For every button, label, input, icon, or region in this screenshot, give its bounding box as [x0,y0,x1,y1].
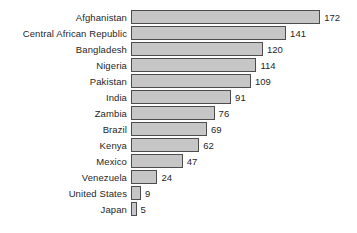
bar-row: United States9 [0,185,357,201]
plot-cell: 141 [131,25,357,41]
category-label: Afghanistan [0,12,131,23]
plot-cell: 5 [131,201,357,217]
bar-row: Bangladesh120 [0,41,357,57]
category-label: Nigeria [0,60,131,71]
category-label: Kenya [0,140,131,151]
bar [131,170,157,184]
bar-row: India91 [0,89,357,105]
category-label: Zambia [0,108,131,119]
bar [131,138,199,152]
bar [131,122,207,136]
bar [131,90,231,104]
plot-cell: 9 [131,185,357,201]
bar [131,74,251,88]
bar [131,106,215,120]
plot-cell: 114 [131,57,357,73]
bar-value-label: 76 [215,108,230,119]
plot-cell: 91 [131,89,357,105]
bar [131,186,141,200]
bar-value-label: 9 [141,188,150,199]
bar-value-label: 91 [231,92,246,103]
bar-row: Nigeria114 [0,57,357,73]
bar-value-label: 114 [256,60,275,71]
bar-value-label: 24 [157,172,172,183]
bar-value-label: 172 [320,12,340,23]
bar-value-label: 5 [137,204,146,215]
plot-cell: 62 [131,137,357,153]
bar-row: Brazil69 [0,121,357,137]
category-label: Central African Republic [0,28,131,39]
plot-cell: 109 [131,73,357,89]
plot-cell: 120 [131,41,357,57]
plot-cell: 172 [131,9,357,25]
plot-cell: 69 [131,121,357,137]
category-label: India [0,92,131,103]
category-label: Pakistan [0,76,131,87]
plot-cell: 24 [131,169,357,185]
category-label: United States [0,188,131,199]
bar-value-label: 47 [183,156,198,167]
bar-row: Central African Republic141 [0,25,357,41]
bar-row: Japan5 [0,201,357,217]
bar-row: Venezuela24 [0,169,357,185]
bar-row: Pakistan109 [0,73,357,89]
category-label: Bangladesh [0,44,131,55]
bar-value-label: 69 [207,124,222,135]
plot-cell: 47 [131,153,357,169]
bar-value-label: 141 [286,28,306,39]
bar-chart-rows: Afghanistan172Central African Republic14… [0,9,357,217]
bar-row: Afghanistan172 [0,9,357,25]
plot-cell: 76 [131,105,357,121]
bar-row: Kenya62 [0,137,357,153]
bar-chart: Afghanistan172Central African Republic14… [0,0,357,233]
bar-row: Mexico47 [0,153,357,169]
bar-value-label: 62 [199,140,214,151]
bar-value-label: 120 [263,44,283,55]
bar [131,154,183,168]
bar [131,58,256,72]
category-label: Venezuela [0,172,131,183]
category-label: Mexico [0,156,131,167]
bar [131,10,320,24]
category-label: Brazil [0,124,131,135]
category-label: Japan [0,204,131,215]
bar [131,42,263,56]
bar-row: Zambia76 [0,105,357,121]
bar [131,26,286,40]
bar-value-label: 109 [251,76,271,87]
